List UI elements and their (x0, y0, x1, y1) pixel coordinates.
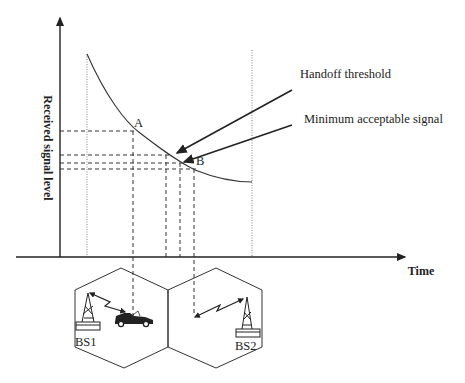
bs2-tower-icon (236, 297, 260, 337)
minimum-signal-pointer (184, 125, 292, 162)
bs1-label: BS1 (75, 335, 97, 349)
bs1-tower-icon (76, 293, 100, 330)
point-a-label: A (134, 116, 143, 130)
x-axis-label: Time (408, 264, 435, 278)
handoff-threshold-pointer (177, 90, 292, 153)
minimum-signal-label: Minimum acceptable signal (304, 112, 443, 126)
cell-bs2-hexagon (168, 268, 262, 368)
y-axis-label: Received signal level (41, 95, 55, 201)
handoff-threshold-label: Handoff threshold (300, 67, 392, 81)
bs2-label: BS2 (235, 339, 257, 353)
car-icon (115, 311, 153, 327)
bs2-radio-link (195, 299, 243, 317)
bs1-radio-link (90, 293, 125, 312)
handoff-diagram: Received signal level Time A B Handoff t… (0, 0, 465, 383)
